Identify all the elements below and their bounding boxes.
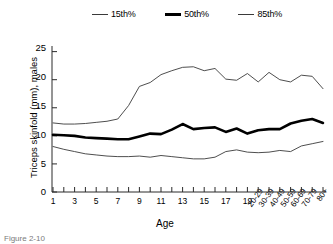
x-tick-marks: [53, 187, 323, 192]
series-line-15th: [53, 141, 323, 158]
chart-figure: 15th% 50th% 85th% Triceps skinfold (mm),…: [0, 0, 333, 244]
plot-area: [0, 0, 333, 244]
axis-lines: [52, 46, 326, 192]
series-line-50th: [53, 119, 323, 139]
y-tick-marks: [52, 52, 57, 192]
series-line-85th: [53, 67, 323, 124]
figure-caption: Figure 2-10: [4, 234, 45, 243]
